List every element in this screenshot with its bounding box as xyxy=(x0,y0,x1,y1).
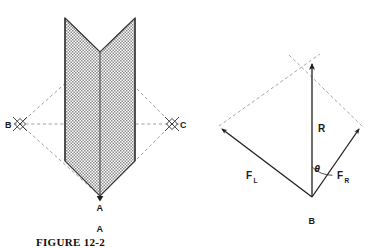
panel-a: B C A A xyxy=(5,18,187,234)
label-point-b: B xyxy=(5,120,12,130)
vector-fl xyxy=(222,129,312,197)
label-vector-fl-main: F xyxy=(246,170,252,181)
diamond-marker-c xyxy=(165,117,179,131)
panel-label-b: B xyxy=(309,216,316,226)
label-vector-fl-sub: L xyxy=(254,177,258,184)
panel-b: θ R F L F R B xyxy=(219,54,362,226)
label-vector-fr-main: F xyxy=(337,170,343,181)
label-vector-fl: F L xyxy=(246,170,258,184)
dash-left-to-apex xyxy=(219,54,320,126)
label-point-a: A xyxy=(97,203,104,213)
construction-lines-b xyxy=(219,54,362,126)
diamond-marker-b xyxy=(13,117,27,131)
label-vector-r: R xyxy=(318,123,326,134)
panel-label-a: A xyxy=(97,224,104,234)
vector-fr xyxy=(312,129,359,197)
dash-right-to-apex xyxy=(288,54,362,126)
figure-caption: FIGURE 12-2 xyxy=(36,236,105,248)
apex-tick-a xyxy=(97,196,104,202)
label-vector-fr-sub: R xyxy=(345,177,350,184)
label-theta: θ xyxy=(315,165,321,174)
label-vector-fr: F R xyxy=(337,170,350,184)
label-point-c: C xyxy=(180,120,187,130)
